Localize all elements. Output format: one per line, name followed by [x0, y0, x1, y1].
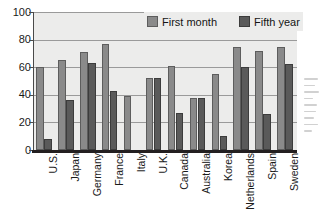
x-axis-tick-label: Italy: [136, 153, 147, 172]
legend-entry-fifth-year: Fifth year: [239, 16, 300, 28]
legend-entry-first-month: First month: [147, 16, 217, 28]
scan-artifact: [304, 78, 322, 132]
bar: [36, 67, 44, 150]
bar: [277, 47, 285, 151]
bar: [285, 64, 293, 150]
bar: [198, 98, 206, 150]
x-axis-tick-label: Sweden: [289, 153, 300, 191]
x-axis-tick-label: U.S.: [48, 153, 59, 173]
bar-chart: 020406080100 U.S.JapanGermanyFranceItaly…: [0, 0, 324, 219]
x-axis-label-japan: Japan: [70, 153, 81, 182]
y-axis-tick-label: 60: [5, 62, 31, 73]
x-axis-tick-label: Spain: [267, 153, 278, 180]
bar: [102, 44, 110, 150]
bar: [154, 78, 162, 150]
x-axis-label-spain: Spain: [267, 153, 278, 180]
bar: [255, 51, 263, 150]
legend-label-fifth-year: Fifth year: [254, 16, 300, 28]
x-axis-label-canada: Canada: [179, 153, 190, 190]
chart-legend: First month Fifth year: [144, 12, 303, 31]
bar: [168, 66, 176, 150]
x-axis-tick-label: U.K.: [158, 153, 169, 173]
legend-label-first-month: First month: [162, 16, 217, 28]
x-axis-tick-label: Netherlands: [245, 153, 256, 210]
x-axis-tick-label: Germany: [92, 153, 103, 196]
x-axis-tick-label: France: [114, 153, 125, 186]
y-axis-tick-label: 40: [5, 89, 31, 100]
bar: [233, 47, 241, 151]
x-axis-label-france: France: [114, 153, 125, 186]
x-axis-label-germany: Germany: [92, 153, 103, 196]
y-axis-tick-label: 80: [5, 34, 31, 45]
x-axis-labels: U.S.JapanGermanyFranceItalyU.K.CanadaAus…: [33, 153, 296, 219]
y-axis-tick-label: 100: [5, 7, 31, 18]
bar: [212, 74, 220, 150]
x-axis-label-netherlands: Netherlands: [245, 153, 256, 210]
x-axis-label-u-s: U.S.: [48, 153, 59, 173]
bar: [66, 100, 74, 150]
bar: [190, 98, 198, 150]
x-axis-label-australia: Australia: [201, 153, 212, 194]
legend-swatch-icon-fifth-year: [239, 16, 250, 27]
x-axis-label-u-k: U.K.: [158, 153, 169, 173]
y-axis: 020406080100: [0, 0, 31, 219]
x-axis-tick-label: Japan: [70, 153, 81, 182]
bar: [220, 136, 228, 150]
bar: [110, 91, 118, 150]
x-axis-tick-label: Korea: [223, 153, 234, 181]
bars-layer: [33, 12, 296, 150]
bar: [176, 113, 184, 150]
x-axis-tick-label: Canada: [179, 153, 190, 190]
bar: [88, 63, 96, 150]
x-axis-label-korea: Korea: [223, 153, 234, 181]
bar: [263, 114, 271, 150]
y-axis-tick-label: 20: [5, 117, 31, 128]
bar: [58, 60, 66, 150]
bar: [146, 78, 154, 150]
bar: [241, 67, 249, 150]
bar: [124, 96, 132, 150]
x-axis-tick-label: Australia: [201, 153, 212, 194]
bar: [80, 52, 88, 150]
bar: [44, 139, 52, 150]
x-axis-label-italy: Italy: [136, 153, 147, 172]
legend-swatch-icon-first-month: [147, 16, 158, 27]
y-axis-tick-label: 0: [5, 145, 31, 156]
x-axis-label-sweden: Sweden: [289, 153, 300, 191]
